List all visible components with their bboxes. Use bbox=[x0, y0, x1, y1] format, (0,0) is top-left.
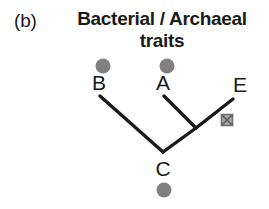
branch-a bbox=[164, 96, 196, 128]
branch-b bbox=[100, 96, 163, 152]
taxon-label-a: A bbox=[153, 72, 173, 93]
crossed-square-icon bbox=[222, 115, 233, 126]
taxon-label-e: E bbox=[230, 74, 250, 95]
taxon-label-c: C bbox=[153, 158, 173, 179]
phylogenetic-tree bbox=[0, 0, 269, 209]
taxon-label-b: B bbox=[89, 72, 109, 93]
figure-panel-b: (b) Bacterial / Archaeal traits B A E C bbox=[0, 0, 269, 209]
branch-root-to-ae bbox=[163, 128, 196, 152]
trait-circle-marker-c bbox=[157, 183, 172, 198]
